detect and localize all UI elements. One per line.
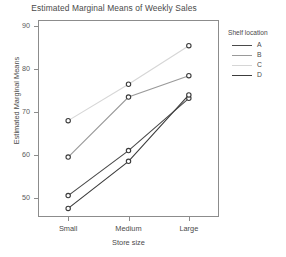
legend-entry-a[interactable]: A (228, 40, 286, 50)
y-axis-tick-label: 70 (8, 108, 30, 115)
legend-entry-d[interactable]: D (228, 70, 286, 80)
x-axis-tick-mark (68, 217, 69, 221)
x-axis-tick-mark (189, 217, 190, 221)
y-axis-tick-label: 90 (8, 22, 30, 29)
y-axis-tick-label: 60 (8, 151, 30, 158)
x-axis-tick-label: Medium (99, 225, 159, 232)
legend-entry-b[interactable]: B (228, 50, 286, 60)
legend-line-swatch-icon (232, 65, 252, 66)
legend-entry-label: D (257, 72, 262, 79)
y-axis-title: Estimated Marginal Means (12, 41, 21, 161)
data-point-marker-b (66, 155, 70, 159)
legend-entry-c[interactable]: C (228, 60, 286, 70)
data-point-marker-c (126, 82, 130, 86)
series-line-a (68, 98, 189, 195)
data-point-marker-a (126, 148, 130, 152)
data-point-marker-b (126, 95, 130, 99)
legend-title: Shelf location (228, 29, 286, 36)
data-point-marker-d (187, 93, 191, 97)
y-axis-tick-label: 50 (8, 194, 30, 201)
legend-entry-label: B (257, 52, 262, 59)
plot-series-canvas (38, 20, 219, 217)
legend: Shelf location ABCD (228, 29, 286, 80)
estimated-marginal-means-chart: Estimated Marginal Means of Weekly Sales… (0, 0, 286, 257)
data-point-marker-d (126, 159, 130, 163)
legend-line-swatch-icon (232, 55, 252, 56)
y-axis-tick-label: 80 (8, 65, 30, 72)
series-line-b (68, 76, 189, 157)
legend-entry-label: A (257, 42, 262, 49)
data-point-marker-c (66, 118, 70, 122)
chart-title: Estimated Marginal Means of Weekly Sales (0, 3, 228, 13)
legend-line-swatch-icon (232, 75, 252, 76)
legend-entry-label: C (257, 62, 262, 69)
data-point-marker-c (187, 43, 191, 47)
data-point-marker-b (187, 73, 191, 77)
x-axis-tick-label: Small (38, 225, 98, 232)
legend-line-swatch-icon (232, 45, 252, 46)
data-point-marker-a (66, 193, 70, 197)
legend-entry-group: ABCD (228, 40, 286, 80)
x-axis-tick-mark (129, 217, 130, 221)
x-axis-tick-label: Large (159, 225, 219, 232)
data-point-marker-d (66, 206, 70, 210)
x-axis-title: Store size (38, 238, 219, 247)
